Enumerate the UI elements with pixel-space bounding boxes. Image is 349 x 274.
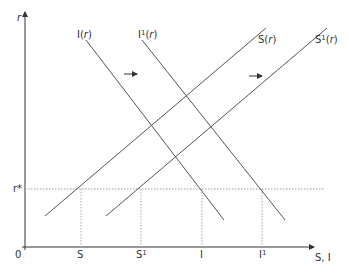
curve-label-i1: I1(r) [138, 30, 157, 40]
tick-label-i1: I1 [259, 250, 266, 260]
curve-label-i: I(r) [77, 30, 92, 40]
y-axis-label: r [17, 13, 21, 23]
investment-curve-i [86, 40, 224, 220]
origin-label: 0 [15, 250, 21, 260]
saving-curve-s1 [106, 28, 327, 216]
diagram-canvas [0, 0, 349, 274]
investment-curve-i1 [142, 40, 285, 220]
tick-label-i: I [200, 250, 203, 260]
curve-label-s1: S1(r) [315, 35, 338, 45]
curve-label-s: S(r) [258, 35, 276, 45]
x-axis-label: S, I [315, 253, 331, 263]
world-rate-label: r* [13, 184, 22, 194]
tick-label-s: S [77, 250, 83, 260]
tick-label-s1: S1 [136, 250, 147, 260]
